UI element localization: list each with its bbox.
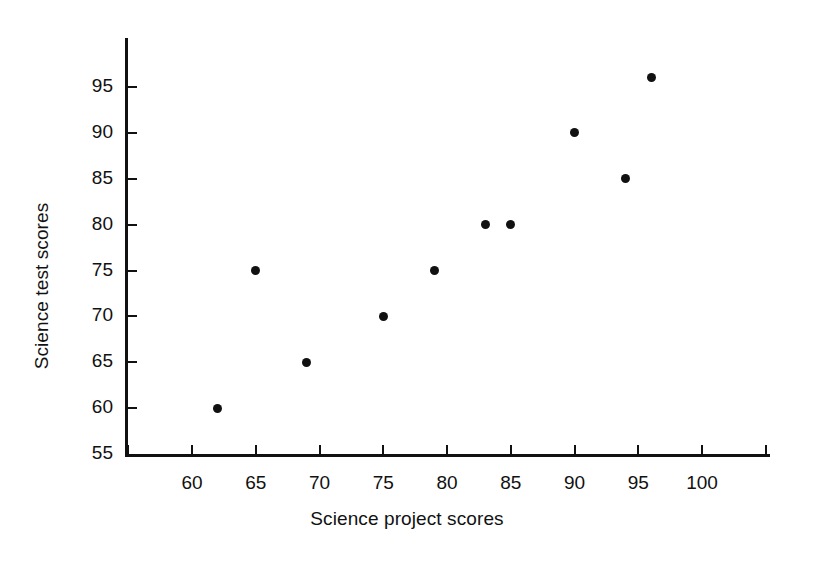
y-tick-70 — [128, 315, 137, 317]
data-point — [213, 404, 222, 413]
x-tick-75 — [382, 445, 384, 454]
y-tick-65 — [128, 361, 137, 363]
y-tick-label-95: 95 — [69, 75, 113, 97]
x-tick-85 — [510, 445, 512, 454]
y-tick-label-85: 85 — [69, 167, 113, 189]
y-tick-85 — [128, 178, 137, 180]
data-point — [302, 358, 311, 367]
x-tick-label-60: 60 — [167, 472, 217, 494]
x-tick-70 — [319, 445, 321, 454]
x-tick-label-90: 90 — [550, 472, 600, 494]
y-tick-95 — [128, 86, 137, 88]
data-point — [379, 312, 388, 321]
x-tick-80 — [446, 445, 448, 454]
x-tick-label-95: 95 — [613, 472, 663, 494]
data-point — [506, 220, 515, 229]
x-axis-line — [125, 454, 770, 457]
data-point — [251, 266, 260, 275]
x-tick-100 — [701, 445, 703, 454]
x-tick-boundary-105 — [765, 445, 767, 454]
data-point — [481, 220, 490, 229]
x-tick-boundary-55 — [127, 445, 129, 454]
x-tick-65 — [255, 445, 257, 454]
x-tick-label-75: 75 — [358, 472, 408, 494]
y-tick-label-65: 65 — [69, 350, 113, 372]
y-tick-label-90: 90 — [69, 121, 113, 143]
data-point — [570, 128, 579, 137]
x-tick-label-100: 100 — [677, 472, 727, 494]
y-axis-line — [125, 38, 128, 457]
x-tick-label-70: 70 — [295, 472, 345, 494]
plot-area: 6065707580859095556065707580859095100 — [0, 0, 814, 572]
x-tick-label-85: 85 — [486, 472, 536, 494]
y-axis-origin-label: 55 — [69, 442, 113, 464]
y-tick-label-60: 60 — [69, 396, 113, 418]
x-tick-label-80: 80 — [422, 472, 472, 494]
data-point — [621, 174, 630, 183]
data-point — [647, 73, 656, 82]
y-tick-60 — [128, 407, 137, 409]
y-tick-75 — [128, 270, 137, 272]
y-tick-label-80: 80 — [69, 213, 113, 235]
y-tick-label-70: 70 — [69, 304, 113, 326]
scatter-plot-figure: 6065707580859095556065707580859095100 Sc… — [0, 0, 814, 572]
x-tick-label-65: 65 — [231, 472, 281, 494]
y-tick-80 — [128, 224, 137, 226]
x-axis-title: Science project scores — [0, 508, 814, 530]
y-tick-label-75: 75 — [69, 259, 113, 281]
y-tick-90 — [128, 132, 137, 134]
x-tick-95 — [637, 445, 639, 454]
x-tick-90 — [574, 445, 576, 454]
y-axis-title: Science test scores — [28, 0, 56, 572]
x-tick-60 — [191, 445, 193, 454]
data-point — [430, 266, 439, 275]
